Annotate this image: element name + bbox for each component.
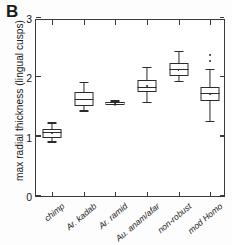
- y-tick-mark-right: [220, 135, 225, 136]
- whisker-upper: [83, 83, 84, 91]
- whisker-cap-lower: [47, 141, 56, 142]
- mean-marker: [114, 103, 116, 105]
- x-tick-label-ar-kadab: Ar. kadab: [64, 201, 98, 232]
- whisker-lower: [210, 101, 211, 122]
- median-line: [137, 87, 156, 88]
- whisker-cap-lower: [79, 110, 88, 111]
- y-tick-mark-right: [220, 76, 225, 77]
- mean-marker: [146, 85, 148, 87]
- boxplot-chimp: [42, 18, 61, 196]
- whisker-cap-upper: [206, 69, 215, 70]
- whisker-cap-upper: [47, 122, 56, 123]
- boxplot-ar-kadab: [74, 18, 93, 196]
- mean-marker: [51, 132, 53, 134]
- y-tick-mark: [36, 76, 41, 77]
- y-tick-label: 3: [12, 13, 32, 25]
- mean-marker: [83, 98, 85, 100]
- y-axis-label: max radial thickness (lingual cusps): [14, 6, 25, 196]
- whisker-cap-lower: [206, 121, 215, 122]
- boxplot-au-anam-afar: [137, 18, 156, 196]
- mean-marker: [209, 93, 211, 95]
- whisker-cap-lower: [142, 102, 151, 103]
- outlier-point: [209, 60, 211, 62]
- figure-panel-b: B max radial thickness (lingual cusps) 0…: [0, 0, 232, 245]
- y-tick-label: 1: [12, 132, 32, 144]
- whisker-cap-lower: [174, 81, 183, 82]
- mean-marker: [178, 69, 180, 71]
- y-tick-mark-right: [220, 195, 225, 196]
- y-tick-mark: [36, 135, 41, 136]
- whisker-upper: [146, 68, 147, 80]
- whisker-cap-upper: [174, 51, 183, 52]
- y-tick-mark: [36, 195, 41, 196]
- y-tick-mark-right: [220, 17, 225, 18]
- boxplot-ar-ramid: [106, 18, 125, 196]
- y-tick-label: 2: [12, 72, 32, 84]
- whisker-cap-upper: [142, 67, 151, 68]
- boxplot-non-robust: [169, 18, 188, 196]
- y-tick-mark: [36, 17, 41, 18]
- x-tick-label-chimp: chimp: [42, 201, 66, 223]
- outlier-point: [209, 54, 211, 56]
- whisker-upper: [210, 70, 211, 87]
- plot-area: [35, 19, 225, 197]
- whisker-cap-upper: [79, 82, 88, 83]
- y-tick-label: 0: [12, 191, 32, 203]
- boxplot-mod-homo: [201, 18, 220, 196]
- whisker-upper: [178, 52, 179, 63]
